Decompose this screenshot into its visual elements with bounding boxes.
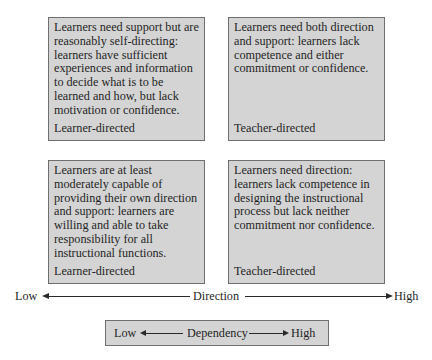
quadrant-top-left: Learners need support but are reasonably… <box>48 17 205 141</box>
dependency-line-left <box>143 333 183 334</box>
quadrant-bottom-right: Learners need direction: learners lack c… <box>228 160 385 284</box>
direction-line-right <box>245 296 389 297</box>
direction-low-label: Low <box>15 289 37 303</box>
quadrant-label: Learner-directed <box>54 265 135 279</box>
direction-high-label: High <box>394 289 418 303</box>
dependency-legend: Low Dependency High <box>105 320 329 346</box>
dependency-axis-title: Dependency <box>187 326 248 340</box>
dependency-low-label: Low <box>114 326 136 340</box>
direction-axis-title: Direction <box>193 289 239 303</box>
dependency-high-label: High <box>291 326 315 340</box>
quadrant-label: Teacher-directed <box>234 122 315 136</box>
quadrant-description: Learners need support but are reasonably… <box>54 21 201 118</box>
direction-line-left <box>46 296 190 297</box>
quadrant-label: Teacher-directed <box>234 265 315 279</box>
quadrant-description: Learners need both direction and support… <box>234 21 381 76</box>
dependency-line-right <box>249 333 285 334</box>
quadrant-label: Learner-directed <box>54 122 135 136</box>
arrow-right-icon <box>386 293 393 299</box>
quadrant-bottom-left: Learners are at least moderately capable… <box>48 160 205 284</box>
quadrant-description: Learners are at least moderately capable… <box>54 164 201 261</box>
quadrant-description: Learners need direction: learners lack c… <box>234 164 381 233</box>
quadrant-top-right: Learners need both direction and support… <box>228 17 385 141</box>
arrow-right-icon <box>283 330 289 336</box>
